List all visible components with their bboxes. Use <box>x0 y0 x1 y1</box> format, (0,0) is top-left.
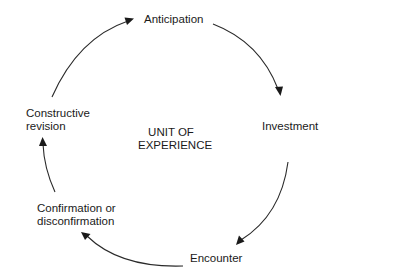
stage-anticipation: Anticipation <box>144 13 203 26</box>
stage-investment-label: Investment <box>262 120 318 133</box>
arrow-anticipation-to-investment <box>213 24 283 96</box>
experience-cycle-diagram: Anticipation Investment Encounter Confir… <box>0 0 415 279</box>
arrow-encounter-to-confirmation <box>81 232 183 266</box>
stage-encounter-label: Encounter <box>190 252 242 265</box>
stage-revision-label-line2: revision <box>26 120 90 133</box>
arrow-confirmation-to-revision <box>39 137 55 192</box>
center-label: UNIT OF EXPERIENCE <box>138 126 204 151</box>
stage-confirmation-label-line2: disconfirmation <box>37 215 116 228</box>
stage-confirmation-label-line1: Confirmation or <box>37 202 116 215</box>
stage-anticipation-label: Anticipation <box>144 13 203 26</box>
center-label-line1: UNIT OF <box>138 126 204 139</box>
stage-investment: Investment <box>262 120 318 133</box>
stage-revision: Constructive revision <box>26 107 90 132</box>
arrow-investment-to-encounter <box>236 162 288 245</box>
center-label-line2: EXPERIENCE <box>138 139 204 152</box>
stage-revision-label-line1: Constructive <box>26 107 90 120</box>
arrow-revision-to-anticipation <box>52 18 134 98</box>
stage-confirmation: Confirmation or disconfirmation <box>37 202 116 227</box>
stage-encounter: Encounter <box>190 252 242 265</box>
